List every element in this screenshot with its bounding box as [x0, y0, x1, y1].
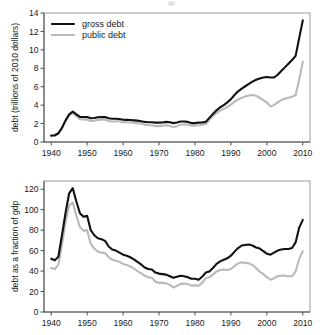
x-tick-label: 1960	[114, 318, 133, 328]
x-tick-label: 1940	[42, 148, 61, 158]
x-tick-label: 2010	[293, 148, 312, 158]
y-tick-label: 2	[34, 119, 39, 129]
x-tick-label: 1980	[185, 318, 204, 328]
x-tick-label: 1990	[221, 148, 240, 158]
y-tick-label: 0	[34, 137, 39, 147]
y-tick-label: 20	[29, 287, 39, 297]
y-tick-label: 10	[29, 45, 39, 55]
x-tick-label: 1950	[78, 148, 97, 158]
chart-panel-bottom: debt as a fraction of gdp 02040608010012…	[0, 167, 320, 335]
y-tick-label: 120	[24, 184, 39, 194]
series-line-public-debt	[51, 202, 303, 287]
x-tick-label: 1990	[221, 318, 240, 328]
x-tick-label: 1950	[78, 318, 97, 328]
plot-frame	[44, 181, 310, 312]
legend-label-gross-debt: gross debt	[82, 19, 125, 29]
y-tick-label: 40	[29, 266, 39, 276]
chart-svg-bottom: 0204060801001201940195019601970198019902…	[0, 167, 320, 335]
x-tick-label: 1960	[114, 148, 133, 158]
x-tick-label: 1940	[42, 318, 61, 328]
y-tick-label: 4	[34, 100, 39, 110]
chart-panel-top: debt (trillions of 2010 dollars) 0246810…	[0, 0, 320, 168]
y-tick-label: 100	[24, 205, 39, 215]
x-tick-label: 1970	[149, 318, 168, 328]
y-tick-label: 14	[29, 8, 39, 18]
series-line-public-debt	[51, 62, 303, 136]
y-tick-label: 60	[29, 246, 39, 256]
y-tick-label: 12	[29, 27, 39, 37]
x-tick-label: 2000	[257, 148, 276, 158]
x-tick-label: 2000	[257, 318, 276, 328]
x-tick-label: 1970	[149, 148, 168, 158]
x-tick-label: 2010	[293, 318, 312, 328]
y-tick-label: 6	[34, 82, 39, 92]
x-tick-label: 1980	[185, 148, 204, 158]
debt-chart-figure: debt (trillions of 2010 dollars) 0246810…	[0, 0, 320, 335]
legend-label-public-debt: public debt	[82, 30, 126, 40]
y-tick-label: 8	[34, 63, 39, 73]
chart-svg-top: 0246810121419401950196019701980199020002…	[0, 0, 320, 168]
y-tick-label: 0	[34, 307, 39, 317]
y-tick-label: 80	[29, 225, 39, 235]
